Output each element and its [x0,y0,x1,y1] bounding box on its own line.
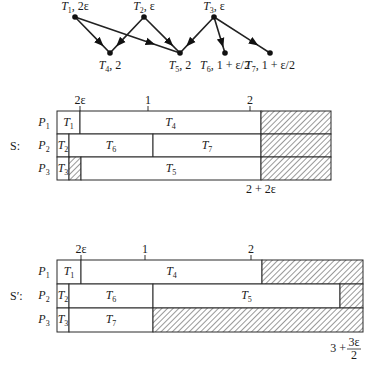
schedule-s-prime-gantt: 2ε12T1T4P1T2T6T5P2T3T7P3S′:3 + 3ε2 [10,242,363,362]
processor-label-P2: P2 [37,138,49,154]
node-T7 [267,50,273,56]
node-T2 [141,14,147,20]
processor-label-P2: P2 [37,288,49,304]
processor-label-P3: P3 [37,312,49,328]
node-label-T5: T5, 2 [169,58,192,74]
node-label-T7: T7, 1 + ε/2 [245,58,295,74]
makespan-fraction-denominator: 2 [351,348,357,362]
edge-T3-T5 [180,17,214,53]
idle-block [261,157,331,180]
task-precedence-graph: T1, 2εT2, εT3, εT4, 2T5, 2T6, 1 + ε/2T7,… [61,0,295,74]
schedule-s-gantt: 2ε12T1T4P1T2T6T7P2T3T5P3S:2 + 2ε [10,93,331,196]
node-label-T3: T3, ε [203,0,225,15]
tick-label: 2 [248,242,254,256]
makespan-label: 2 + 2ε [246,182,276,196]
processor-label-P1: P1 [37,115,49,131]
tick-label: 2ε [75,242,86,256]
tick-label: 2ε [74,93,85,107]
makespan-fraction-numerator: 3ε [348,335,359,349]
node-T3 [211,14,217,20]
scheduling-diagram: T1, 2εT2, εT3, εT4, 2T5, 2T6, 1 + ε/2T7,… [0,0,377,371]
makespan-label: 3 + [330,341,346,355]
idle-block [262,260,363,284]
edge-T3-T7 [214,17,270,53]
idle-block [261,111,331,134]
idle-block [261,134,331,157]
node-label-T2: T2, ε [133,0,155,15]
idle-block [153,308,363,332]
node-T6 [222,50,228,56]
processor-label-P1: P1 [37,264,49,280]
idle-block [340,284,363,308]
node-T4 [107,50,113,56]
node-label-T1: T1, 2ε [61,0,89,15]
node-T1 [72,14,78,20]
processor-label-P3: P3 [37,161,49,177]
node-T5 [177,50,183,56]
tick-label: 1 [142,242,148,256]
node-label-T4: T4, 2 [99,58,122,74]
idle-block [69,157,81,180]
tick-label: 1 [145,93,151,107]
node-label-T6: T6, 1 + ε/2 [200,58,250,74]
schedule-name: S′: [10,289,23,303]
schedule-name: S: [10,139,20,153]
edge-T2-T4 [110,17,144,53]
tick-label: 2 [247,93,253,107]
